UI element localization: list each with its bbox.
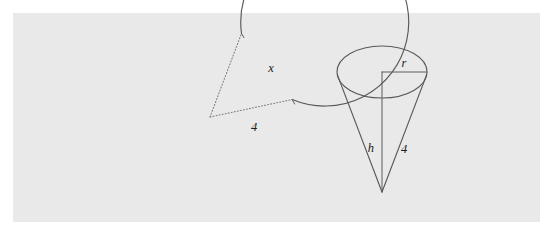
cone-slant-label: 4 [401,142,407,156]
sector-angle-label: x [267,61,274,75]
figure-canvas: x 4 r h 4 [0,0,554,237]
cone-left-slant [337,75,382,192]
cone-height-label: h [368,141,374,155]
sector-cut-cap-upper [242,33,244,37]
cone-group: r h 4 [337,46,427,192]
cone-radius-label: r [402,56,407,70]
sector-radius-label: 4 [251,120,257,134]
sector-group: x 4 [210,0,409,134]
cone-right-slant [382,75,427,192]
geometry-figure: x 4 r h 4 [0,0,554,237]
sector-radius-upper-dotted [210,33,242,117]
sector-radius-lower-dotted [210,100,292,118]
circle-major-arc [241,0,409,106]
